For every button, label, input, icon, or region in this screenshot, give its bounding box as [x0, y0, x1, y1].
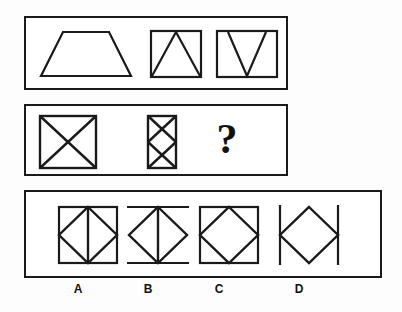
option-b-figure[interactable]: [126, 204, 190, 266]
sequence-panel: [24, 16, 288, 90]
figure-rectangle-with-inverted-v: [148, 28, 204, 80]
figure-tall-rectangle-with-double-x: [145, 113, 179, 171]
option-a-figure[interactable]: [56, 204, 120, 266]
figure-square-with-x: [37, 113, 99, 171]
option-label-b: B: [136, 282, 160, 296]
option-label-d: D: [287, 282, 311, 296]
option-label-a: A: [66, 282, 90, 296]
options-panel: [24, 190, 382, 278]
question-mark: ?: [207, 112, 247, 168]
problem-panel: [24, 104, 288, 176]
figure-trapezoid: [38, 29, 134, 79]
option-d-figure[interactable]: [277, 204, 341, 266]
puzzle-root: ?: [0, 0, 402, 312]
option-c-figure[interactable]: [197, 204, 261, 266]
option-label-c: C: [207, 282, 231, 296]
figure-rectangle-with-v: [214, 28, 280, 80]
